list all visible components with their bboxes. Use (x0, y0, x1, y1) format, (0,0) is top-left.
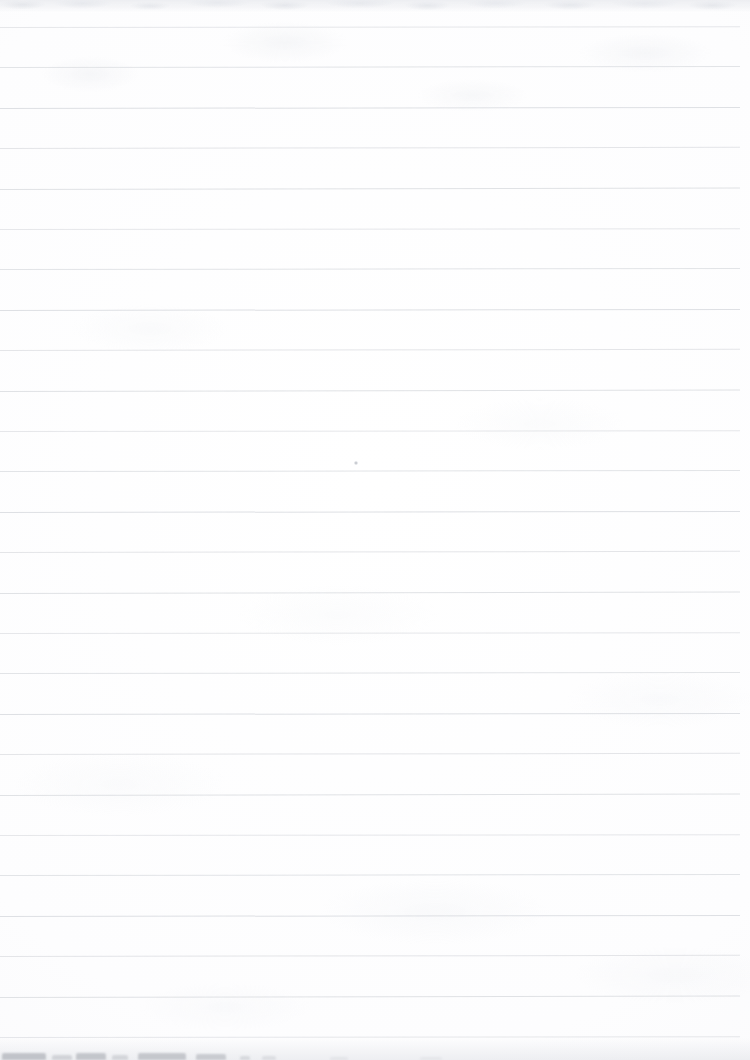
ink-speck-mark (354, 461, 358, 465)
scanned-page (0, 0, 750, 1060)
paper-background (0, 0, 750, 1060)
